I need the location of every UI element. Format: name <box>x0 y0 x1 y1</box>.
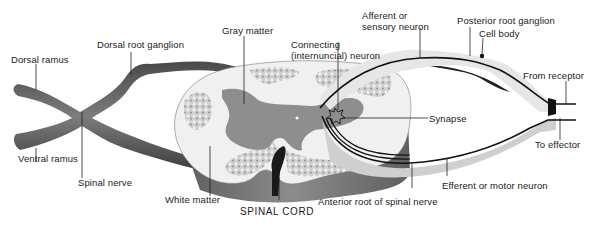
label-cell-body: Cell body <box>479 28 520 39</box>
label-connecting-neuron-line2: (internuncial) neuron <box>291 50 380 61</box>
label-to-effector: To effector <box>535 139 580 150</box>
label-spinal-nerve: Spinal nerve <box>78 177 132 188</box>
label-posterior-root-ganglion: Posterior root ganglion <box>457 15 555 26</box>
label-white-matter: White matter <box>165 194 220 205</box>
label-ventral-ramus: Ventral ramus <box>18 153 78 164</box>
label-spinal-cord: SPINAL CORD <box>240 206 314 217</box>
label-afferent-line2: sensory neuron <box>362 21 429 32</box>
label-synapse: Synapse <box>429 113 467 124</box>
label-efferent: Efferent or motor neuron <box>442 180 548 191</box>
label-anterior-root: Anterior root of spinal nerve <box>318 196 438 207</box>
label-gray-matter: Gray matter <box>222 25 273 36</box>
label-dorsal-root-ganglion: Dorsal root ganglion <box>97 39 184 50</box>
label-connecting-neuron-line1: Connecting <box>291 39 340 50</box>
label-from-receptor: From receptor <box>523 70 584 81</box>
cell-body-icon <box>480 54 484 58</box>
label-afferent-line1: Afferent or <box>362 10 407 21</box>
label-dorsal-ramus: Dorsal ramus <box>11 54 69 65</box>
